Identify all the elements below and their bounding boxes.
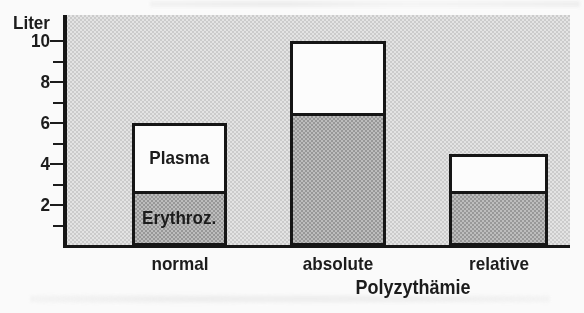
erythrocyte-label: Erythroz. <box>142 207 216 229</box>
erythrocyte-segment <box>293 113 383 243</box>
y-tick-label: 10 <box>19 30 50 52</box>
y-minor-tick <box>53 225 63 227</box>
y-major-tick <box>50 81 63 83</box>
y-minor-tick <box>53 61 63 63</box>
y-tick-label: 8 <box>19 71 50 93</box>
plasma-label: Plasma <box>150 147 210 169</box>
book-figure-stacked-bar-chart: Liter 108642 PlasmaErythroz. normalabsol… <box>0 0 584 313</box>
y-tick-label: 2 <box>19 194 50 216</box>
bar-normal: PlasmaErythroz. <box>132 123 227 246</box>
erythrocyte-segment: Erythroz. <box>135 191 224 243</box>
y-tick-label: 6 <box>19 112 50 134</box>
y-minor-tick <box>53 143 63 145</box>
category-label-normal: normal <box>117 253 243 275</box>
category-label-relative: relative <box>436 253 562 275</box>
y-major-tick <box>50 40 63 42</box>
bar-absolute <box>290 41 386 246</box>
y-axis-line <box>63 15 67 248</box>
y-major-tick <box>50 122 63 124</box>
plasma-segment <box>293 44 383 113</box>
plasma-segment <box>452 157 545 191</box>
y-minor-tick <box>53 102 63 104</box>
y-major-tick <box>50 204 63 206</box>
erythrocyte-segment <box>452 191 545 243</box>
y-minor-tick <box>53 184 63 186</box>
y-tick-label: 4 <box>19 153 50 175</box>
x-axis-title: Polyzythämie <box>341 276 485 299</box>
category-label-absolute: absolute <box>275 253 401 275</box>
bar-relative <box>449 154 548 246</box>
y-major-tick <box>50 163 63 165</box>
scan-artifact-top <box>150 1 580 7</box>
plasma-segment: Plasma <box>135 126 224 191</box>
